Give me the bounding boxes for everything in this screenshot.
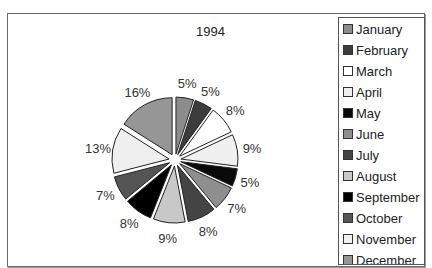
legend-label: March xyxy=(356,64,392,79)
legend-swatch-icon xyxy=(343,213,353,223)
legend-swatch-icon xyxy=(343,24,353,34)
slice-label: 16% xyxy=(124,85,150,100)
legend-swatch-icon xyxy=(343,171,353,181)
legend-swatch-icon xyxy=(343,255,353,265)
legend-item-december: December xyxy=(343,251,416,265)
legend-item-july: July xyxy=(343,146,379,164)
legend-swatch-icon xyxy=(343,87,353,97)
legend-swatch-icon xyxy=(343,45,353,55)
legend-item-september: September xyxy=(343,188,420,206)
slice-label: 9% xyxy=(158,231,177,246)
legend-label: May xyxy=(356,106,381,121)
legend-label: June xyxy=(356,127,384,142)
legend-swatch-icon xyxy=(343,150,353,160)
slice-label: 5% xyxy=(178,76,197,91)
legend-item-february: February xyxy=(343,41,408,59)
legend-label: October xyxy=(356,211,402,226)
legend-label: November xyxy=(356,232,416,247)
legend-item-may: May xyxy=(343,104,381,122)
legend-item-august: August xyxy=(343,167,396,185)
legend-swatch-icon xyxy=(343,192,353,202)
legend-label: February xyxy=(356,43,408,58)
legend-label: July xyxy=(356,148,379,163)
legend-swatch-icon xyxy=(343,66,353,76)
legend-swatch-icon xyxy=(343,234,353,244)
legend: JanuaryFebruaryMarchAprilMayJuneJulyAugu… xyxy=(338,17,425,265)
legend-label: January xyxy=(356,22,402,37)
legend-label: August xyxy=(356,169,396,184)
legend-label: September xyxy=(356,190,420,205)
slice-label: 8% xyxy=(226,103,245,118)
legend-label: April xyxy=(356,85,382,100)
legend-item-june: June xyxy=(343,125,384,143)
legend-item-november: November xyxy=(343,230,416,248)
legend-item-april: April xyxy=(343,83,382,101)
legend-label: December xyxy=(356,253,416,266)
legend-item-october: October xyxy=(343,209,402,227)
slice-label: 13% xyxy=(85,141,111,156)
slice-label: 5% xyxy=(241,175,260,190)
slice-label: 7% xyxy=(227,201,246,216)
slice-label: 7% xyxy=(96,188,115,203)
legend-item-march: March xyxy=(343,62,392,80)
slice-label: 5% xyxy=(201,84,220,99)
slice-label: 9% xyxy=(243,141,262,156)
slice-label: 8% xyxy=(120,216,139,231)
legend-swatch-icon xyxy=(343,129,353,139)
legend-item-january: January xyxy=(343,20,402,38)
slice-label: 8% xyxy=(199,224,218,239)
legend-swatch-icon xyxy=(343,108,353,118)
